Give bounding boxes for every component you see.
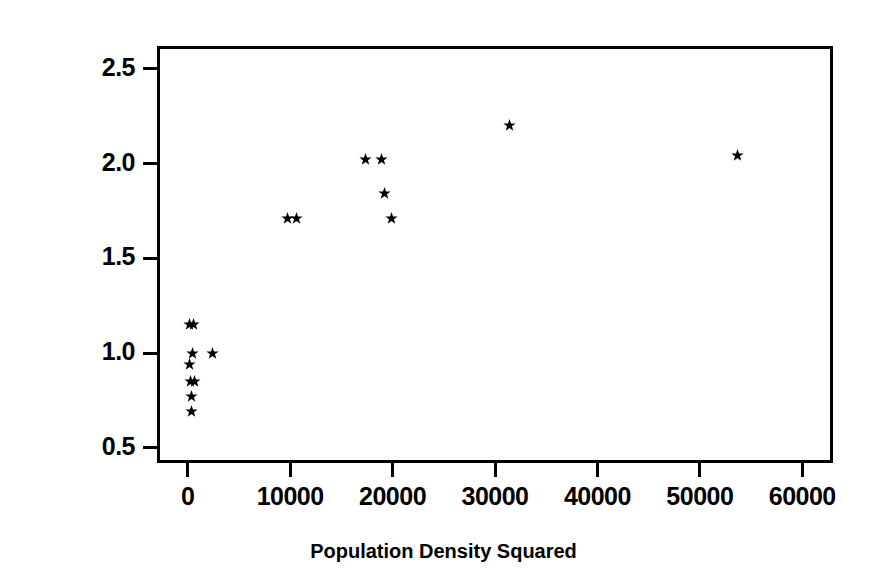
x-axis-tick <box>186 463 189 477</box>
y-axis-tick <box>143 162 157 165</box>
x-axis-tick <box>698 463 701 477</box>
scatter-plot-figure: 0.51.01.52.02.5 010000200003000040000500… <box>0 0 887 587</box>
x-axis-tick-label: 60000 <box>769 482 836 511</box>
plot-frame <box>157 46 833 463</box>
y-axis-tick <box>143 67 157 70</box>
x-axis-tick-label: 50000 <box>666 482 733 511</box>
x-axis-tick-label: 30000 <box>461 482 528 511</box>
x-axis-tick <box>289 463 292 477</box>
y-axis-tick-label: 2.5 <box>102 53 135 82</box>
x-axis-tick <box>494 463 497 477</box>
y-axis-tick-label: 2.0 <box>102 148 135 177</box>
y-axis-tick-label: 0.5 <box>102 432 135 461</box>
x-axis-tick <box>801 463 804 477</box>
y-axis-tick <box>143 446 157 449</box>
x-axis-tick-label: 0 <box>181 482 194 511</box>
x-axis-tick-label: 10000 <box>257 482 324 511</box>
x-axis-tick <box>596 463 599 477</box>
x-axis-title: Population Density Squared <box>0 540 887 563</box>
y-axis-tick-label: 1.5 <box>102 242 135 271</box>
y-axis-tick <box>143 257 157 260</box>
x-axis-tick-label: 20000 <box>359 482 426 511</box>
y-axis-tick <box>143 352 157 355</box>
x-axis-tick <box>391 463 394 477</box>
x-axis-tick-label: 40000 <box>564 482 631 511</box>
y-axis-tick-label: 1.0 <box>102 337 135 366</box>
